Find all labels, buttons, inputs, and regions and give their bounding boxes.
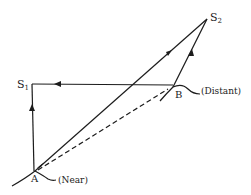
arrow-a-to-s1-icon: [29, 104, 35, 111]
label-near: (Near): [58, 175, 88, 185]
arrow-b-to-s1-icon: [54, 81, 61, 87]
label-b: B: [175, 89, 182, 100]
path-a-to-s1: [32, 84, 34, 171]
label-s2: S2: [210, 11, 222, 25]
path-a-to-b-dashed: [38, 89, 168, 170]
label-s1: S1: [17, 78, 29, 92]
label-a: A: [30, 173, 39, 184]
path-b-to-s1: [32, 84, 173, 85]
signal-path-diagram: S1 S2 B (Distant) A (Near): [0, 0, 251, 195]
label-distant: (Distant): [201, 86, 241, 96]
